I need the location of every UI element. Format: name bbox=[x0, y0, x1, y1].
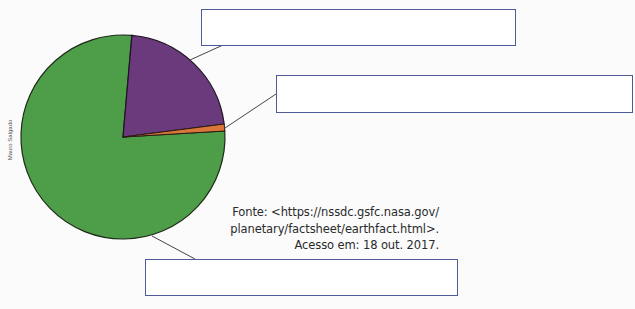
leader-line-right bbox=[225, 94, 276, 128]
source-line-1: Fonte: <https://nssdc.gsfc.nasa.gov/ bbox=[220, 204, 439, 221]
source-line-3: Acesso em: 18 out. 2017. bbox=[220, 237, 439, 254]
leader-line-top bbox=[190, 45, 223, 60]
leader-line-bottom bbox=[152, 236, 195, 259]
source-line-2: planetary/factsheet/earthfact.html>. bbox=[220, 221, 439, 238]
pie-slice-purple bbox=[123, 35, 224, 137]
source-citation: Fonte: <https://nssdc.gsfc.nasa.gov/ pla… bbox=[220, 204, 439, 254]
illustrator-credit: Mauro Salgado bbox=[7, 120, 13, 161]
label-box-right[interactable] bbox=[276, 75, 633, 113]
label-box-bottom[interactable] bbox=[145, 259, 458, 296]
label-box-top[interactable] bbox=[201, 9, 516, 46]
